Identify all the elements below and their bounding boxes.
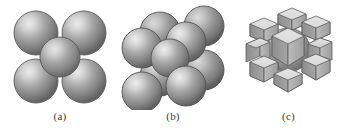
panel-b: (b) bbox=[112, 0, 234, 138]
panel-c: (c) bbox=[240, 0, 337, 138]
panel-c-caption: (c) bbox=[240, 110, 337, 122]
panel-a: (a) bbox=[0, 0, 120, 138]
corner-fragment-bottom-right bbox=[302, 54, 330, 80]
figure-root: Body-centered cubic (BCC) crystal struct… bbox=[0, 0, 337, 138]
reduced-sphere-unit-cell-diagram bbox=[112, 0, 234, 110]
sphere-body-center bbox=[40, 37, 80, 77]
hard-sphere-unit-cell-diagram bbox=[0, 0, 120, 110]
sphere-front-bottom-left bbox=[122, 72, 162, 110]
sphere-front-bottom-right bbox=[166, 66, 206, 106]
panel-b-caption: (b) bbox=[112, 110, 234, 122]
panel-a-caption: (a) bbox=[0, 110, 120, 122]
aggregate-unit-cell-diagram bbox=[240, 0, 337, 110]
